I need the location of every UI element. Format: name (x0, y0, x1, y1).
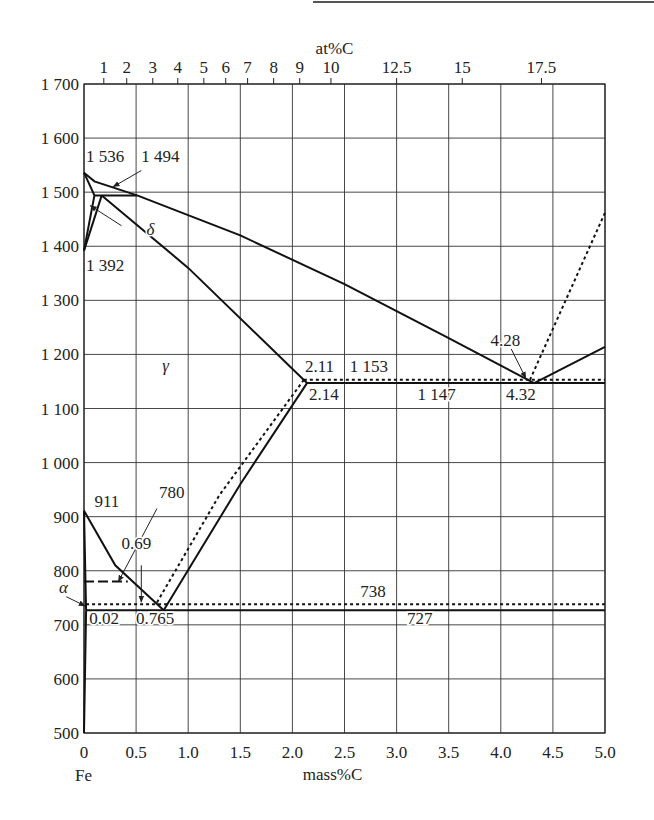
top-tick-label: 2 (122, 58, 131, 77)
phase-line-liquidus-main (137, 195, 534, 383)
y-tick-label: 600 (54, 670, 80, 689)
phase-line-a3 (84, 511, 164, 611)
x-tick-label: 3.5 (438, 743, 459, 762)
top-tick-label: 5 (200, 58, 209, 77)
annotation-label: 0.02 (89, 609, 119, 628)
top-tick-label: 8 (269, 58, 278, 77)
phase-line-liquidus-right (534, 347, 605, 383)
x-tick-label: 1.5 (230, 743, 251, 762)
annotation-label: 0.69 (122, 534, 152, 553)
annotation-label: 1 147 (417, 385, 456, 404)
annotation-label: 2.11 (305, 357, 334, 376)
annotation-label: 780 (159, 483, 185, 502)
x-tick-label: 1.0 (178, 743, 199, 762)
phase-line-acm-stable (164, 383, 307, 610)
y-tick-label: 1 500 (41, 183, 79, 202)
x-tick-label: 2.0 (282, 743, 303, 762)
x-tick-label: 4.0 (490, 743, 511, 762)
y-tick-label: 1 300 (41, 291, 79, 310)
annotation-label: 911 (94, 492, 119, 511)
top-tick-label: 4 (174, 58, 183, 77)
top-tick-label: 9 (295, 58, 304, 77)
y-tick-label: 500 (54, 724, 80, 743)
origin-label: Fe (75, 766, 92, 785)
top-tick-label: 7 (243, 58, 252, 77)
annotation-label: 1 392 (86, 256, 124, 275)
annotation-label: 1 153 (350, 357, 388, 376)
fe-c-phase-diagram: 00.51.01.52.02.53.03.54.04.55.0500600700… (0, 0, 654, 820)
y-tick-label: 1 600 (41, 129, 79, 148)
top-tick-label: 17.5 (527, 58, 557, 77)
x-tick-label: 3.0 (386, 743, 407, 762)
x-tick-label: 4.5 (542, 743, 563, 762)
annotation-arrow (66, 597, 85, 606)
annotation-label: 2.14 (309, 385, 339, 404)
y-tick-label: 900 (54, 508, 80, 527)
x-tick-label: 0 (80, 743, 89, 762)
top-tick-label: 1 (100, 58, 109, 77)
y-tick-label: 1 700 (41, 75, 79, 94)
annotation-label: 1 494 (141, 147, 180, 166)
top-tick-label: 10 (322, 58, 339, 77)
annotation-label: 4.32 (506, 385, 536, 404)
y-tick-label: 1 000 (41, 454, 79, 473)
annotation-label: 0.765 (136, 609, 174, 628)
top-axis-label: at%C (316, 39, 354, 58)
top-tick-label: 12.5 (382, 58, 412, 77)
x-tick-label: 2.5 (334, 743, 355, 762)
top-tick-label: 6 (221, 58, 230, 77)
annotation-label: 727 (407, 609, 433, 628)
phase-line-solidus-gamma (102, 195, 307, 383)
x-tick-label: 0.5 (125, 743, 146, 762)
annotation-arrow (113, 171, 141, 187)
annotation-label: 4.28 (490, 331, 520, 350)
y-tick-label: 1 200 (41, 345, 79, 364)
top-tick-label: 15 (454, 58, 471, 77)
annotation-label: α (59, 578, 69, 597)
annotation-label: γ (162, 356, 170, 375)
x-axis-label: mass%C (303, 765, 363, 784)
y-tick-label: 700 (54, 616, 80, 635)
annotation-label: 1 536 (86, 147, 124, 166)
y-tick-label: 1 400 (41, 237, 79, 256)
annotation-label: δ (147, 220, 156, 239)
x-tick-label: 5.0 (594, 743, 615, 762)
top-tick-label: 3 (149, 58, 158, 77)
y-tick-label: 1 100 (41, 400, 79, 419)
annotation-label: 738 (360, 582, 386, 601)
